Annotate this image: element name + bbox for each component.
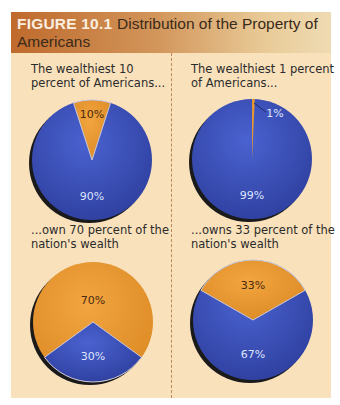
pie-label: 33%: [241, 279, 265, 292]
pie-bottom-right: 33% 67%: [190, 260, 313, 383]
pie-label: 30%: [81, 350, 105, 363]
pie-top-left: 10% 90%: [29, 100, 152, 223]
pie-top-right: 1% 99%: [189, 99, 312, 222]
pie-charts: 10% 90% 1% 99% 70% 30% 33% 67%: [11, 12, 331, 398]
pie-label: 67%: [241, 348, 265, 361]
pie-bottom-left: 70% 30%: [30, 262, 153, 385]
pie-label: 70%: [81, 294, 105, 307]
figure-panel: Distribution of the Property of American…: [11, 12, 331, 398]
pie-label: 10%: [80, 108, 104, 121]
pie-label: 90%: [80, 190, 104, 203]
pie-label: 99%: [240, 189, 264, 202]
pie-label: 1%: [266, 107, 283, 120]
